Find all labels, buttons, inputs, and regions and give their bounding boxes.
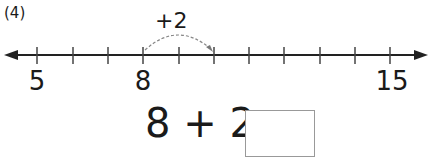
- number-line: [0, 0, 436, 100]
- tick-label-5: 5: [29, 68, 46, 94]
- tick-label-8: 8: [135, 68, 152, 94]
- jump-arrowhead-icon: [206, 45, 213, 52]
- left-arrow-icon: [4, 50, 18, 60]
- right-arrow-icon: [414, 50, 428, 60]
- tick-label-15: 15: [375, 68, 408, 94]
- answer-box[interactable]: [245, 110, 315, 157]
